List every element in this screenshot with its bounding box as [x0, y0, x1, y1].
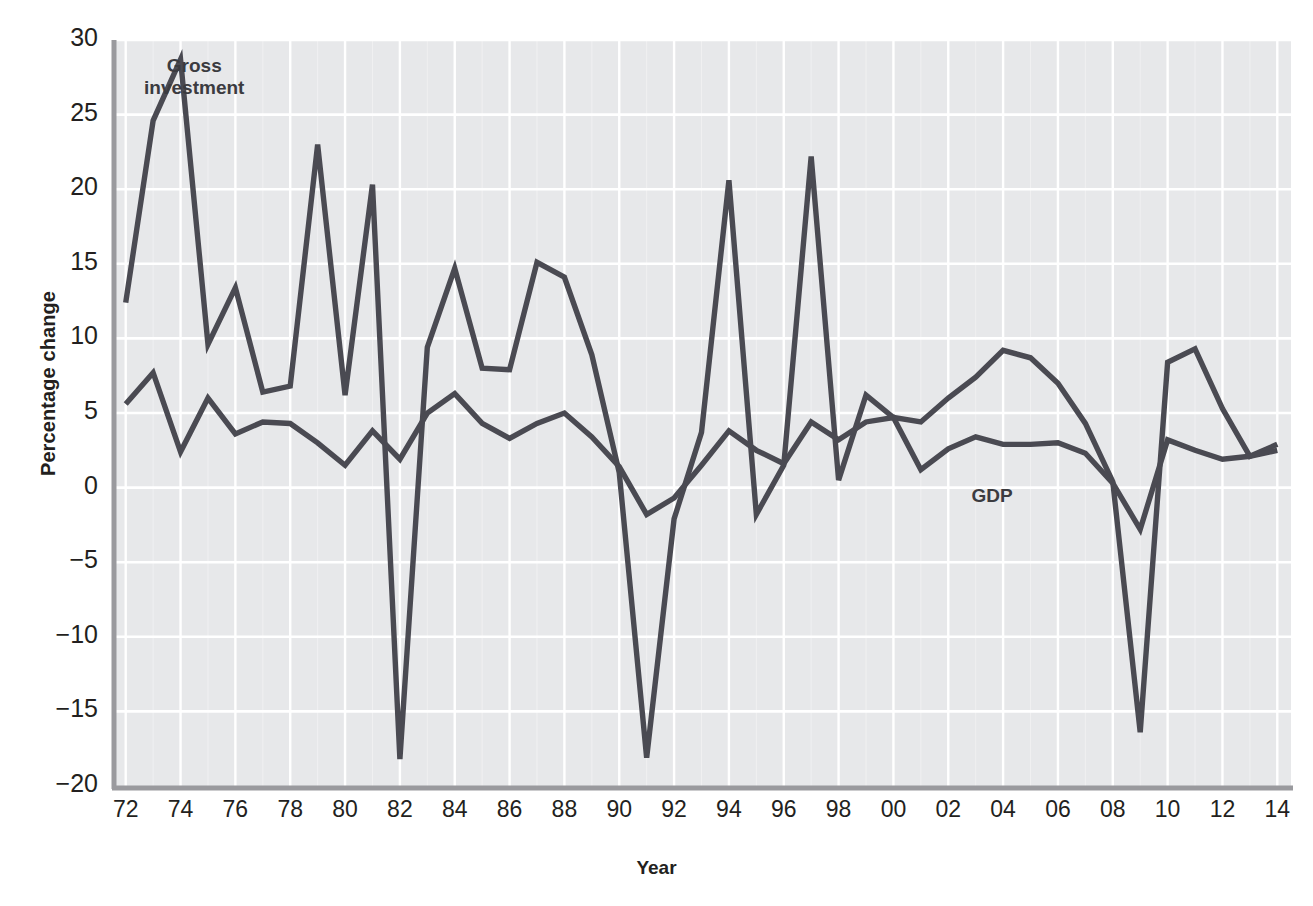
y-tick-label: −15 [24, 694, 98, 723]
y-tick-label: 5 [24, 396, 98, 425]
x-tick-label: 10 [1138, 796, 1198, 823]
x-tick-label: 90 [589, 796, 649, 823]
x-tick-label: 78 [260, 796, 320, 823]
y-tick-label: −20 [24, 769, 98, 798]
series-label-gross-line2: investment [144, 77, 244, 98]
x-tick-label: 84 [425, 796, 485, 823]
x-tick-label: 14 [1247, 796, 1307, 823]
x-tick-label: 74 [151, 796, 211, 823]
x-tick-label: 06 [1028, 796, 1088, 823]
series-label-gdp: GDP [971, 485, 1041, 507]
y-tick-label: 20 [24, 172, 98, 201]
x-tick-label: 82 [370, 796, 430, 823]
x-tick-label: 12 [1192, 796, 1252, 823]
y-tick-label: 0 [24, 471, 98, 500]
y-tick-label: −10 [24, 620, 98, 649]
y-axis-title: Percentage change [37, 284, 60, 484]
cut-off-caption [0, 0, 700, 8]
y-tick-label: 10 [24, 321, 98, 350]
y-tick-label: 25 [24, 98, 98, 127]
x-tick-label: 92 [644, 796, 704, 823]
x-tick-label: 72 [96, 796, 156, 823]
x-tick-label: 88 [534, 796, 594, 823]
y-tick-label: −5 [24, 545, 98, 574]
x-tick-label: 86 [480, 796, 540, 823]
x-tick-label: 04 [973, 796, 1033, 823]
y-tick-label: 30 [24, 23, 98, 52]
chart-figure: Percentage change Year 302520151050−5−10… [0, 0, 1313, 906]
x-tick-label: 98 [809, 796, 869, 823]
x-tick-label: 08 [1083, 796, 1143, 823]
x-tick-label: 02 [918, 796, 978, 823]
x-tick-label: 00 [863, 796, 923, 823]
x-tick-label: 76 [205, 796, 265, 823]
y-tick-label: 15 [24, 247, 98, 276]
x-axis-title: Year [0, 857, 1313, 879]
series-label-gross-investment: Gross investment [119, 55, 269, 99]
plot-area [0, 0, 1313, 906]
x-tick-label: 96 [754, 796, 814, 823]
x-tick-label: 94 [699, 796, 759, 823]
x-tick-label: 80 [315, 796, 375, 823]
series-label-gross-line1: Gross [167, 55, 222, 76]
